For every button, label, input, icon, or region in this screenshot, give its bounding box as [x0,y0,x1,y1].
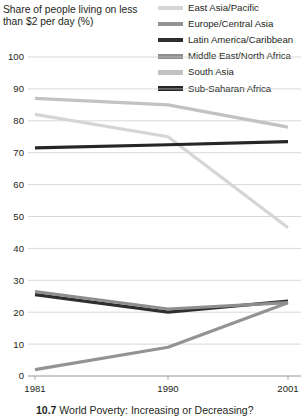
series-line [35,98,288,127]
chart-plot-area: 0102030405060708090100 198119902001 [0,0,305,417]
y-axis-tick-label: 60 [13,179,24,190]
y-axis-tick-label: 90 [13,83,24,94]
y-axis-tick-label: 70 [13,147,24,158]
series-line [35,114,288,227]
figure-caption: 10.7 World Poverty: Increasing or Decrea… [36,404,254,416]
series-line [35,142,288,148]
caption-number: 10.7 [36,404,56,416]
series-lines [35,98,288,369]
x-axis-tick-label: 1990 [157,383,178,394]
y-axis-tick-label: 0 [19,370,24,381]
y-axis-tick-label: 50 [13,211,24,222]
y-axis-tick-label: 80 [13,115,24,126]
y-axis-tick-label: 30 [13,275,24,286]
y-axis-tick-label: 40 [13,243,24,254]
x-axis-tick-label: 2001 [277,383,298,394]
y-axis-tick-label: 10 [13,339,24,350]
y-axis-ticks: 0102030405060708090100 [8,51,24,381]
x-axis-tick-label: 1981 [24,383,45,394]
y-axis-tick-label: 20 [13,307,24,318]
x-axis: 198119902001 [24,376,301,394]
y-axis-tick-label: 100 [8,51,24,62]
caption-text: World Poverty: Increasing or Decreasing? [56,404,253,416]
line-chart-svg: 0102030405060708090100 198119902001 [0,0,305,417]
